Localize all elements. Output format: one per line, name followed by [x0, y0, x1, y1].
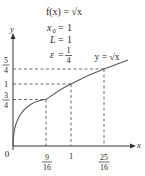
x-tick-1: 1	[69, 151, 73, 161]
svg-text:25: 25	[100, 153, 108, 162]
svg-text:=: =	[58, 49, 64, 60]
sqrt-curve	[13, 60, 128, 146]
origin-label: 0	[5, 149, 10, 159]
L-param: L = 1	[49, 34, 72, 45]
y-tick-5-4: 5 4	[3, 56, 10, 75]
epsilon-param: ε = 1 4	[50, 45, 72, 65]
svg-text:0: 0	[53, 27, 56, 34]
x-axis-arrow-icon	[130, 144, 136, 149]
y-tick-3-4: 3 4	[3, 91, 10, 110]
svg-text:1: 1	[66, 45, 70, 55]
svg-text:16: 16	[43, 163, 51, 172]
svg-text:4: 4	[4, 101, 8, 110]
svg-text:=: =	[58, 22, 64, 33]
x-tick-25-16: 25 16	[99, 153, 110, 172]
svg-text:1: 1	[67, 22, 72, 33]
svg-text:9: 9	[45, 153, 49, 162]
function-label: f(x) = √x	[46, 6, 82, 18]
y-tick-1: 1	[4, 79, 8, 89]
x0-param: x 0 = 1	[46, 22, 72, 34]
svg-text:5: 5	[4, 56, 8, 65]
x-tick-9-16: 9 16	[42, 153, 52, 172]
svg-text:x: x	[46, 22, 52, 33]
y-axis-label: y	[9, 24, 14, 34]
svg-text:16: 16	[100, 163, 108, 172]
svg-text:1: 1	[67, 34, 72, 45]
svg-text:ε: ε	[50, 49, 54, 60]
epsilon-delta-diagram: f(x) = √x x 0 = 1 L = 1 ε = 1 4 y = √x y…	[0, 0, 145, 176]
svg-text:3: 3	[4, 91, 8, 100]
curve-label: y = √x	[95, 52, 120, 62]
svg-text:4: 4	[66, 55, 71, 65]
svg-text:L: L	[49, 34, 56, 45]
svg-text:=: =	[58, 34, 64, 45]
x-axis-label: x	[136, 140, 141, 150]
svg-text:4: 4	[4, 66, 8, 75]
